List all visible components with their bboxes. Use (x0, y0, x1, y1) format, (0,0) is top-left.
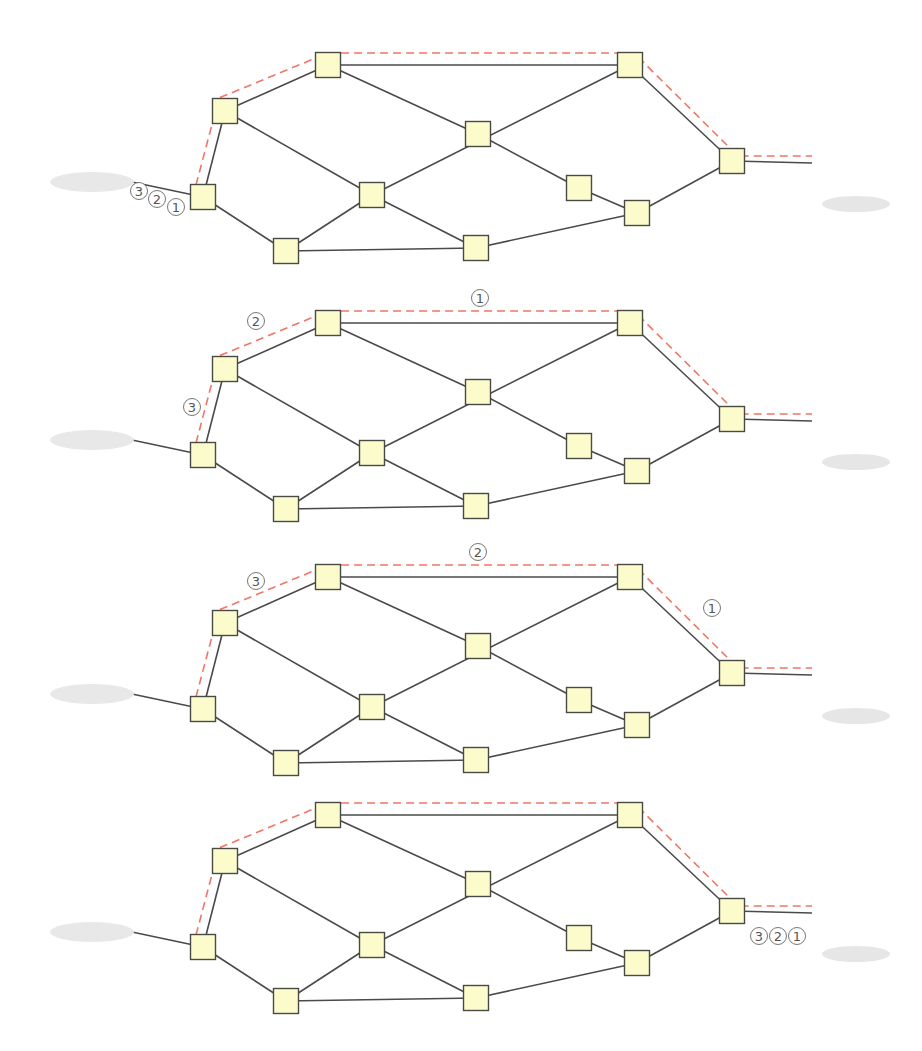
router-node-n4 (466, 872, 491, 897)
link-n1-n5 (225, 111, 372, 195)
link-n3-n8 (630, 65, 732, 161)
svg-text:3: 3 (188, 400, 196, 415)
router-node-n3 (618, 53, 643, 78)
router-node-n1 (213, 611, 238, 636)
router-node-n6 (567, 434, 592, 459)
svg-text:1: 1 (476, 291, 484, 306)
link-n1-n5 (225, 369, 372, 453)
link-n5-n10 (372, 453, 476, 506)
desktop-computer-icon (50, 922, 134, 942)
link-n5-n10 (372, 195, 476, 248)
svg-text:2: 2 (774, 929, 782, 944)
router-node-n8 (720, 149, 745, 174)
server-icon (822, 454, 890, 470)
router-node-n3 (618, 311, 643, 336)
link-n1-n5 (225, 861, 372, 945)
link-n7-n8 (637, 161, 732, 213)
router-node-n2 (316, 311, 341, 336)
link-n9-n10 (286, 248, 476, 251)
link-n4-n6 (478, 646, 579, 700)
router-node-n2 (316, 565, 341, 590)
router-node-n5 (360, 183, 385, 208)
svg-text:1: 1 (708, 601, 716, 616)
packet-label: 1 (789, 928, 806, 945)
svg-text:1: 1 (172, 200, 180, 215)
link-n9-n10 (286, 998, 476, 1001)
router-node-n3 (618, 565, 643, 590)
router-node-n10 (464, 986, 489, 1011)
link-n1-n5 (225, 623, 372, 707)
router-node-n1 (213, 849, 238, 874)
router-node-n10 (464, 236, 489, 261)
router-node-n7 (625, 713, 650, 738)
link-n5-n10 (372, 945, 476, 998)
router-node-n7 (625, 951, 650, 976)
router-node-n5 (360, 933, 385, 958)
link-n1-n2 (225, 815, 328, 861)
server-icon (822, 946, 890, 962)
router-node-n0 (191, 935, 216, 960)
router-node-n7 (625, 201, 650, 226)
router-node-n8 (720, 899, 745, 924)
link-n2-n4 (328, 65, 478, 134)
router-node-n1 (213, 357, 238, 382)
router-node-n3 (618, 803, 643, 828)
link-n3-n8 (630, 577, 732, 673)
svg-text:3: 3 (135, 184, 143, 199)
server-icon (822, 708, 890, 724)
packet-label: 2 (149, 191, 166, 208)
svg-text:3: 3 (755, 929, 763, 944)
router-node-n6 (567, 926, 592, 951)
packet-label: 1 (704, 600, 721, 617)
link-n10-n7 (476, 471, 637, 506)
link-n3-n8 (630, 323, 732, 419)
network-panel-step-2: 123 (0, 258, 922, 528)
packet-label: 3 (248, 573, 265, 590)
desktop-computer-icon (50, 684, 134, 704)
router-node-n2 (316, 803, 341, 828)
packet-label: 2 (770, 928, 787, 945)
packet-label: 3 (751, 928, 768, 945)
network-panel-step-1: 321 (0, 0, 922, 270)
router-node-n4 (466, 634, 491, 659)
router-node-n8 (720, 407, 745, 432)
link-n7-n8 (637, 911, 732, 963)
link-n7-n8 (637, 419, 732, 471)
network-panel-step-4: 321 (0, 750, 922, 1020)
network-panel-step-3: 231 (0, 512, 922, 782)
router-node-n0 (191, 185, 216, 210)
packet-label: 2 (470, 544, 487, 561)
link-n10-n7 (476, 963, 637, 998)
packet-label: 3 (184, 399, 201, 416)
router-node-n4 (466, 122, 491, 147)
router-node-n8 (720, 661, 745, 686)
link-n1-n2 (225, 65, 328, 111)
link-n7-n8 (637, 673, 732, 725)
router-node-n7 (625, 459, 650, 484)
router-node-n0 (191, 443, 216, 468)
link-n2-n4 (328, 577, 478, 646)
packet-label: 1 (472, 290, 489, 307)
link-n1-n2 (225, 577, 328, 623)
svg-text:3: 3 (252, 574, 260, 589)
desktop-computer-icon (50, 172, 134, 192)
link-n3-n8 (630, 815, 732, 911)
desktop-computer-icon (50, 430, 134, 450)
link-n1-n2 (225, 323, 328, 369)
svg-text:2: 2 (153, 192, 161, 207)
link-n4-n6 (478, 884, 579, 938)
svg-text:1: 1 (793, 929, 801, 944)
router-node-n5 (360, 441, 385, 466)
server-icon (822, 196, 890, 212)
svg-text:2: 2 (252, 314, 260, 329)
link-n4-n6 (478, 392, 579, 446)
link-n2-n4 (328, 323, 478, 392)
router-node-n4 (466, 380, 491, 405)
svg-text:2: 2 (474, 545, 482, 560)
router-node-n6 (567, 176, 592, 201)
packet-label: 1 (168, 199, 185, 216)
router-node-n5 (360, 695, 385, 720)
link-n2-n4 (328, 815, 478, 884)
link-n9-n10 (286, 506, 476, 509)
router-node-n2 (316, 53, 341, 78)
